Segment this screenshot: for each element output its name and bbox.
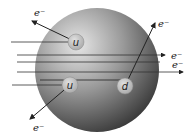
electron-label: e⁻: [34, 7, 45, 18]
quark-u-bottom: u: [62, 77, 78, 93]
proton-scattering-diagram: u u d e⁻ e⁻ e⁻ e⁻ e⁻: [0, 0, 192, 139]
electron-label: e⁻: [158, 18, 169, 29]
quark-u-top: u: [68, 34, 84, 50]
electron-label: e⁻: [172, 59, 183, 70]
svg-text:u: u: [67, 80, 73, 91]
quark-d: d: [117, 78, 133, 94]
svg-text:u: u: [73, 37, 79, 48]
proton-sphere: [35, 8, 159, 132]
svg-text:d: d: [122, 81, 129, 92]
electron-label: e⁻: [33, 122, 44, 133]
